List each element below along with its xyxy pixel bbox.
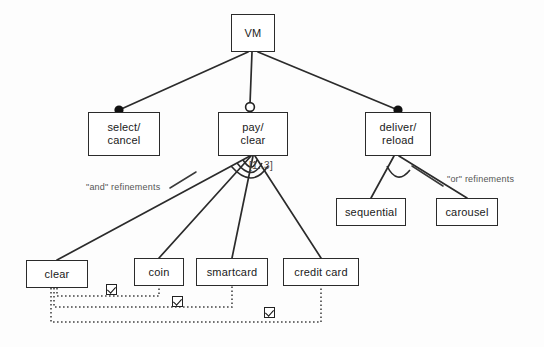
node-clear[interactable]: clear [26, 260, 88, 288]
annotation-or-refinements: "or" refinements [447, 174, 514, 184]
node-smartcard-label: smartcard [207, 266, 258, 279]
node-select-cancel-line-0: select/ [107, 121, 140, 134]
link-clear-creditcard [51, 286, 321, 322]
node-vm-line-0: VM [245, 27, 262, 40]
or-arc [387, 166, 410, 177]
node-sequential[interactable]: sequential [336, 198, 406, 226]
checkbox-clear-smartcard[interactable] [172, 296, 183, 307]
edge-pay-clear [57, 156, 250, 260]
edge-vm-deliver [258, 52, 398, 110]
node-select-cancel[interactable]: select/ cancel [88, 112, 160, 156]
checkbox-clear-coin[interactable] [106, 284, 117, 295]
node-sequential-label: sequential [345, 206, 397, 219]
leader-or [412, 166, 443, 186]
checkbox-clear-creditcard[interactable] [264, 307, 275, 318]
node-pay-clear-line-0: pay/ [242, 121, 264, 134]
edge-deliver-sequential [371, 156, 394, 198]
leader-and [170, 172, 196, 188]
node-deliver-reload-line-0: deliver/ [379, 121, 416, 134]
node-vm[interactable]: VM [231, 14, 275, 52]
node-deliver-reload-line-1: reload [382, 134, 414, 147]
hollow-circle-pay [246, 103, 255, 112]
node-deliver-reload[interactable]: deliver/ reload [365, 112, 431, 156]
node-pay-clear[interactable]: pay/ clear [218, 112, 288, 156]
node-pay-clear-line-1: clear [241, 134, 266, 147]
node-select-cancel-line-1: cancel [108, 134, 141, 147]
cardinality-label: [1..3] [249, 160, 273, 171]
node-smartcard[interactable]: smartcard [196, 258, 268, 286]
node-credit-card-label: credit card [294, 266, 348, 279]
node-carousel[interactable]: carousel [436, 198, 498, 226]
node-credit-card[interactable]: credit card [283, 258, 359, 286]
edge-vm-select [119, 52, 248, 110]
diagram-canvas: VM select/ cancel pay/ clear deliver/ re… [0, 0, 544, 347]
node-coin-label: coin [149, 266, 170, 279]
node-coin[interactable]: coin [134, 258, 184, 286]
node-clear-label: clear [45, 268, 70, 281]
link-clear-smartcard [54, 286, 232, 307]
edge-vm-pay [250, 52, 252, 104]
annotation-and-refinements: "and" refinements [86, 182, 160, 192]
node-carousel-label: carousel [445, 206, 488, 219]
